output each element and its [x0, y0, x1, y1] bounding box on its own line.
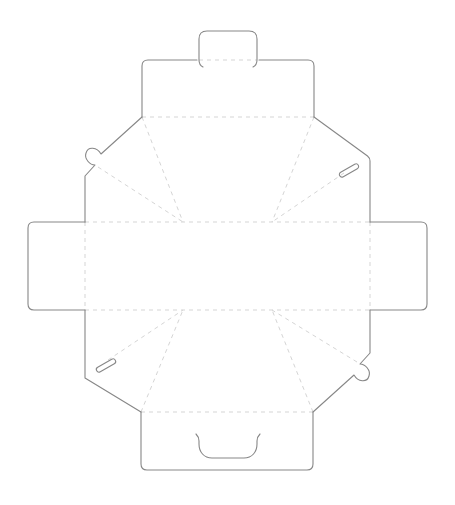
- top-left-corner-edge-with-ear-hook: [85, 117, 142, 222]
- top-flap-right-edge: [259, 60, 314, 117]
- top-right-corner-edge: [314, 117, 370, 222]
- fold-lines-group: [85, 60, 370, 412]
- bottom-left-steep-diagonal-fold: [141, 310, 183, 412]
- bottom-left-corner-edge: [85, 310, 141, 412]
- bottom-right-shallow-diagonal-fold: [272, 310, 357, 362]
- top-right-lock-slot: [339, 164, 358, 177]
- right-flap-outline: [370, 222, 427, 310]
- bottom-right-steep-diagonal-fold: [272, 310, 313, 412]
- top-right-shallow-diagonal-fold: [272, 173, 344, 222]
- top-left-steep-diagonal-fold: [142, 117, 183, 222]
- bottom-left-shallow-diagonal-fold: [108, 310, 183, 360]
- thumb-notch-cut: [196, 434, 260, 458]
- tuck-tab-outline: [199, 31, 257, 67]
- cut-lines-group: [28, 31, 427, 470]
- top-right-steep-diagonal-fold: [272, 117, 314, 222]
- dieline-diagram: [0, 0, 455, 505]
- left-flap-outline: [28, 222, 85, 310]
- bottom-left-lock-slot: [96, 359, 115, 372]
- bottom-flap-outline: [141, 412, 313, 470]
- bottom-right-corner-edge-with-ear-hook: [313, 310, 370, 412]
- top-left-shallow-diagonal-fold: [98, 167, 183, 222]
- top-flap-left-edge: [142, 60, 197, 117]
- box-dieline-svg: [0, 0, 455, 505]
